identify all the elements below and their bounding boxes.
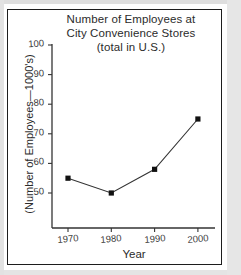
y-axis-tick-label: 50 — [22, 185, 45, 198]
y-axis-tick-label: 90 — [22, 67, 45, 80]
y-axis-tick-label: 70 — [22, 126, 45, 139]
chart-canvas: Number of Employees at City Convenience … — [0, 0, 241, 275]
data-point-marker — [152, 167, 157, 172]
y-axis-tick-label: 60 — [22, 156, 45, 169]
axes-group — [52, 44, 215, 228]
y-axis-tick-label: 100 — [22, 37, 45, 50]
data-series-line — [68, 119, 198, 193]
data-point-marker — [109, 190, 114, 195]
data-point-marker — [65, 176, 70, 181]
data-point-marker — [195, 116, 200, 121]
y-axis-tick-label: 80 — [22, 96, 45, 109]
